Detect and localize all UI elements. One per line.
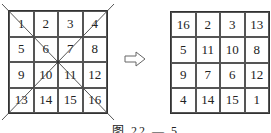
grid-cell: 7 (58, 37, 83, 63)
grid-cell: 3 (58, 11, 83, 37)
grid-cell: 14 (196, 88, 221, 113)
grid-cell: 5 (9, 37, 34, 63)
grid-cell: 3 (220, 12, 245, 37)
grid-cell: 7 (196, 63, 221, 88)
grid-cell: 2 (34, 11, 59, 37)
grid-cell: 2 (196, 12, 221, 37)
grid-cell: 6 (34, 37, 59, 63)
grid-cell: 1 (245, 88, 270, 113)
grid-cell: 6 (220, 63, 245, 88)
grid-cell: 11 (196, 37, 221, 62)
grid-cell: 16 (171, 12, 196, 37)
grid-cell: 4 (171, 88, 196, 113)
grid-cell: 12 (83, 62, 108, 88)
figure-caption: 图 22 — 5 (112, 121, 179, 133)
grid-cell: 9 (171, 63, 196, 88)
grid-cell: 16 (83, 88, 108, 114)
grid-cell: 13 (9, 88, 34, 114)
grid-cell: 12 (245, 63, 270, 88)
magic-square-grid: 16 2 3 13 5 11 10 8 9 7 6 12 4 14 15 1 (170, 11, 270, 114)
grid-cell: 14 (34, 88, 59, 114)
grid-cell: 9 (9, 62, 34, 88)
grid-cell: 11 (58, 62, 83, 88)
grid-cell: 8 (83, 37, 108, 63)
grid-cell: 10 (34, 62, 59, 88)
right-arrow-icon (124, 51, 146, 67)
grid-cell: 13 (245, 12, 270, 37)
grid-cell: 1 (9, 11, 34, 37)
grid-cell: 10 (220, 37, 245, 62)
original-grid: 1 2 3 4 5 6 7 8 9 10 11 12 13 14 15 16 (8, 10, 108, 114)
grid-cell: 5 (171, 37, 196, 62)
grid-cell: 8 (245, 37, 270, 62)
grid-cell: 15 (220, 88, 245, 113)
grid-cell: 4 (83, 11, 108, 37)
grid-cell: 15 (58, 88, 83, 114)
